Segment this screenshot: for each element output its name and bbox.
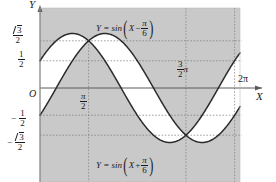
annotation-lower-right-paren: ) bbox=[149, 157, 153, 173]
y-tick-neg-sqrt3-over-2-sign: − bbox=[7, 138, 13, 147]
y-tick-neg-sqrt3-over-2-denominator: 2 bbox=[15, 142, 25, 152]
annotation-upper-curve-prefix: Y = sin bbox=[96, 23, 122, 33]
annotation-upper-left-paren: ( bbox=[123, 20, 127, 36]
annotation-upper-curve: Y = sin(X− π 6 ) bbox=[96, 19, 155, 38]
annotation-lower-left-paren: ( bbox=[123, 157, 127, 173]
x-tick-pi-over-2: π 2 bbox=[80, 92, 87, 111]
annotation-lower-curve-prefix: Y = sin bbox=[96, 160, 122, 170]
y-tick-one-half: 1 2 bbox=[18, 50, 25, 69]
x-axis-label: X bbox=[256, 91, 263, 102]
y-tick-neg-one-half-numerator: 1 bbox=[19, 109, 26, 118]
y-tick-sqrt3-over-2: 3 2 bbox=[13, 25, 23, 45]
annotation-lower-frac-num: π bbox=[141, 156, 148, 165]
y-axis-label: Y bbox=[29, 0, 35, 10]
y-tick-one-half-numerator: 1 bbox=[18, 50, 25, 59]
figure-canvas: Y X O 3 2 1 2 − 1 2 − 3 2 π bbox=[0, 0, 276, 182]
x-tick-pi-over-2-numerator: π bbox=[80, 92, 87, 101]
origin-label: O bbox=[29, 89, 36, 99]
annotation-upper-curve-operator: − bbox=[134, 23, 141, 33]
y-tick-neg-one-half-denominator: 2 bbox=[19, 118, 26, 128]
y-tick-neg-one-half: − 1 2 bbox=[11, 109, 26, 128]
y-tick-sqrt3-over-2-numerator: 3 bbox=[17, 25, 22, 35]
y-tick-sqrt3-over-2-denominator: 2 bbox=[13, 35, 23, 45]
annotation-upper-frac-num: π bbox=[141, 19, 148, 28]
annotation-lower-frac-den: 6 bbox=[141, 165, 148, 175]
annotation-lower-curve: Y = sin(X+ π 6 ) bbox=[96, 156, 155, 175]
annotation-upper-right-paren: ) bbox=[149, 20, 153, 36]
y-tick-one-half-denominator: 2 bbox=[18, 59, 25, 69]
annotation-upper-frac-den: 6 bbox=[141, 28, 148, 38]
annotation-lower-curve-operator: + bbox=[134, 160, 141, 170]
y-tick-neg-one-half-sign: − bbox=[11, 114, 17, 123]
y-tick-neg-sqrt3-over-2: − 3 2 bbox=[7, 132, 25, 152]
x-tick-three-pi-over-2-suffix: π bbox=[184, 64, 189, 74]
x-tick-two-pi: 2π bbox=[238, 74, 248, 84]
x-tick-three-pi-over-2: 3 2 π bbox=[177, 60, 188, 79]
x-tick-pi-over-2-denominator: 2 bbox=[80, 101, 87, 111]
y-tick-neg-sqrt3-over-2-numerator: 3 bbox=[19, 132, 24, 142]
